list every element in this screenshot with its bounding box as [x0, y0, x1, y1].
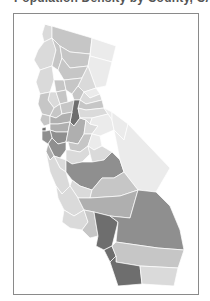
county-tuolumne[interactable] — [90, 114, 114, 136]
county-mendocino[interactable] — [36, 66, 54, 94]
county-san-francisco[interactable] — [42, 127, 46, 131]
county-marin[interactable] — [40, 114, 50, 126]
county-imperial[interactable] — [140, 266, 178, 286]
california-county-map — [0, 0, 210, 301]
